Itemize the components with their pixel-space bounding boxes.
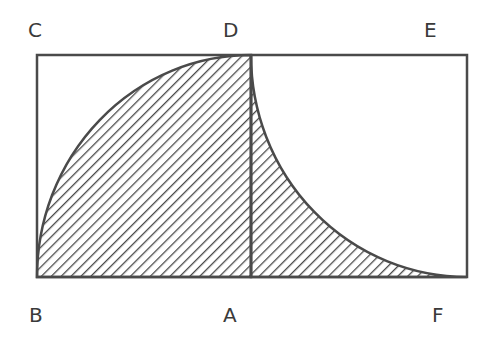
label-F: F xyxy=(432,303,444,327)
label-B: B xyxy=(29,303,43,327)
label-D: D xyxy=(223,18,238,42)
geometry-diagram: C D E B A F xyxy=(0,0,484,340)
label-A: A xyxy=(223,303,237,327)
label-E: E xyxy=(424,18,437,42)
left-shaded-quarter-circle xyxy=(37,55,251,277)
right-shaded-region xyxy=(251,55,467,277)
label-C: C xyxy=(28,18,42,42)
